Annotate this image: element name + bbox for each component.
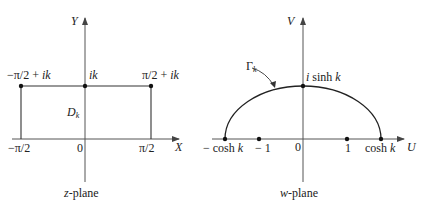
w-plane-figure: V U Γk i sinh k − cosh k − 1 0 1 cosh k … xyxy=(203,14,417,200)
one-label: 1 xyxy=(345,141,351,155)
tick-minus-pi-half: −π/2 xyxy=(8,141,30,155)
w-origin-label: 0 xyxy=(295,140,301,154)
conformal-map-diagram: Y X −π/2 + ik ik π/2 + ik Dk −π/2 0 π/2 … xyxy=(0,0,424,204)
region-label: Dk xyxy=(66,105,80,120)
y-axis-label: Y xyxy=(71,14,79,28)
w-plane-caption: w-plane xyxy=(280,186,318,200)
corner-left-label: −π/2 + ik xyxy=(7,68,51,82)
z-plane-figure: Y X −π/2 + ik ik π/2 + ik Dk −π/2 0 π/2 … xyxy=(7,14,183,200)
point-ik xyxy=(83,84,87,88)
ik-label: ik xyxy=(89,68,98,82)
region-rectangle xyxy=(21,86,151,139)
point-right-corner xyxy=(149,84,153,88)
z-plane-caption: z-plane xyxy=(63,186,99,200)
gamma-label: Γk xyxy=(246,59,257,74)
v-axis-label: V xyxy=(287,14,296,28)
corner-right-label: π/2 + ik xyxy=(142,68,180,82)
minus-one-label: − 1 xyxy=(255,141,271,155)
origin-label: 0 xyxy=(77,141,83,155)
tick-pi-half: π/2 xyxy=(139,141,154,155)
point-i-sinh xyxy=(301,84,305,88)
cosh-label: cosh k xyxy=(365,141,396,155)
gamma-pointer-head xyxy=(270,81,276,88)
u-axis-label: U xyxy=(407,140,417,154)
point-left-corner xyxy=(19,84,23,88)
x-axis-label: X xyxy=(174,140,183,154)
i-sinh-label: i sinh k xyxy=(306,70,341,84)
minus-cosh-label: − cosh k xyxy=(203,141,244,155)
